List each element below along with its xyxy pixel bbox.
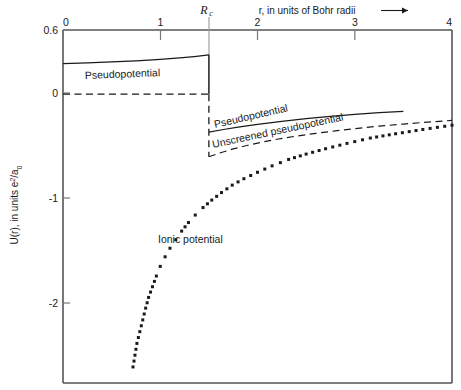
ionic-potential-dot (338, 144, 341, 147)
ionic-potential-dot (144, 307, 147, 310)
ytick-label-top: 0.6 (43, 24, 58, 36)
plot-frame (63, 30, 452, 383)
ionic-potential-dot (421, 128, 424, 131)
ionic-potential-dot (225, 187, 228, 190)
ionic-potential-dot (141, 318, 144, 321)
ionic-potential-dot (408, 130, 411, 133)
ionic-potential-dot (324, 147, 327, 150)
series-pseudopotential-inner-flat-core-region (63, 55, 209, 64)
ionic-potential-dot (388, 133, 391, 136)
pseudopotential-figure: 0 1 2 3 4 0.6 0 -1 -2 r, in units of Boh… (0, 0, 461, 390)
xtick-label-4: 4 (446, 16, 452, 28)
ionic-potential-dot (194, 214, 197, 217)
ionic-potential-dot (168, 247, 171, 250)
ionic-potential-dot (202, 206, 205, 209)
ionic-potential-dot (210, 199, 213, 202)
ionic-potential-dot (132, 360, 135, 363)
y-axis-title-group: U(r), in units e2/a0 (9, 165, 23, 244)
ionic-potential-dot (231, 184, 234, 187)
ionic-potential-dot (345, 142, 348, 145)
rc-label: R (199, 3, 208, 17)
x-axis-title: r, in units of Bohr radii (259, 5, 356, 16)
xtick-label-0: 0 (63, 16, 69, 28)
ionic-potential-dot (206, 202, 209, 205)
ionic-potential-label: Ionic potential (158, 233, 223, 245)
ionic-potential-dot (263, 168, 266, 171)
y-axis-title: U(r), in units e2/a0 (9, 165, 23, 244)
ionic-potential-dot (242, 177, 245, 180)
series-ionic-potential (132, 124, 454, 369)
xtick-label-2: 2 (255, 16, 261, 28)
ionic-potential-dot (135, 342, 138, 345)
ionic-potential-dot (249, 174, 252, 177)
ytick-label-minus1: -1 (49, 192, 58, 204)
y-axis-ticks (63, 93, 70, 303)
ionic-potential-dot (279, 161, 282, 164)
ionic-potential-dot (134, 348, 137, 351)
ionic-potential-dot (133, 354, 136, 357)
ionic-potential-dot (299, 154, 302, 157)
ionic-potential-dot (318, 149, 321, 152)
ionic-potential-dot (401, 131, 404, 134)
ionic-potential-dot (361, 138, 364, 141)
ionic-potential-dot (132, 365, 135, 368)
ionic-potential-dot (164, 255, 167, 258)
ionic-potential-dot (369, 137, 372, 140)
ionic-potential-dot (331, 145, 334, 148)
ionic-potential-dot (215, 195, 218, 198)
y-axis-title-main: U(r), in units e (9, 181, 20, 244)
ionic-potential-dot (138, 330, 141, 333)
ionic-potential-dot (353, 140, 356, 143)
ionic-potential-dot (394, 132, 397, 135)
ionic-potential-dot (287, 158, 290, 161)
ionic-potential-dot (311, 151, 314, 154)
ionic-potential-dot (429, 127, 432, 130)
ionic-potential-dot (451, 124, 454, 127)
ionic-potential-dot (140, 324, 143, 327)
ionic-potential-dot (187, 221, 190, 224)
ionic-potential-dot (443, 125, 446, 128)
rc-subscript: c (209, 9, 213, 18)
xtick-label-3: 3 (352, 16, 358, 28)
x-axis-arrow-head (402, 8, 408, 14)
ionic-potential-dot (159, 265, 162, 268)
x-axis-ticks (161, 30, 355, 40)
ytick-label-minus2: -2 (49, 297, 58, 309)
x-axis-title-group: r, in units of Bohr radii (259, 5, 408, 16)
ionic-potential-dot (220, 191, 223, 194)
ionic-potential-dot (153, 280, 156, 283)
ionic-potential-dot (305, 153, 308, 156)
ionic-potential-dot (436, 126, 439, 129)
ionic-potential-dot (149, 291, 152, 294)
ionic-potential-dot (146, 301, 149, 304)
ionic-potential-dot (151, 285, 154, 288)
ionic-potential-dot (147, 296, 150, 299)
ionic-potential-dot (375, 135, 378, 138)
y-axis-title-sub: 0 (16, 165, 23, 169)
ytick-label-zero: 0 (52, 87, 58, 99)
ionic-potential-dot (381, 134, 384, 137)
ionic-potential-dot (271, 164, 274, 167)
ionic-potential-dot (155, 275, 158, 278)
ionic-potential-dot (415, 129, 418, 132)
chart-curves (63, 55, 454, 369)
xtick-label-1: 1 (158, 16, 164, 28)
ionic-potential-dot (143, 313, 146, 316)
ionic-potential-dot (237, 180, 240, 183)
chart-svg: 0 1 2 3 4 0.6 0 -1 -2 r, in units of Boh… (0, 0, 461, 390)
ionic-potential-dot (256, 171, 259, 174)
pseudopotential-inner-label: Pseudopotential (85, 66, 161, 81)
rc-marker-group: R c (199, 3, 213, 93)
ionic-potential-dot (293, 156, 296, 159)
ionic-potential-dot (137, 336, 140, 339)
ionic-potential-dot (184, 225, 187, 228)
